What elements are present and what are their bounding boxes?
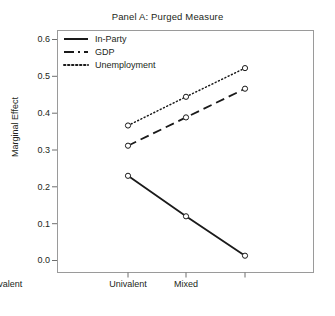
legend-key-dotted-line <box>63 59 89 71</box>
plot-area <box>0 0 335 316</box>
x-tick-marks <box>128 273 245 278</box>
data-point <box>125 143 130 148</box>
y-tick-marks <box>52 40 57 261</box>
data-point <box>242 253 247 258</box>
legend-key-dashed-line <box>63 46 89 58</box>
legend-label: Unemployment <box>95 59 156 71</box>
data-point <box>183 214 188 219</box>
legend-item-gdp: GDP <box>63 45 156 58</box>
legend-item-unemployment: Unemployment <box>63 58 156 71</box>
data-point <box>183 94 188 99</box>
chart-figure: Panel A: Purged Measure Marginal Effect … <box>0 0 335 316</box>
series-in-party <box>125 173 247 258</box>
data-point <box>125 123 130 128</box>
legend-label: In-Party <box>95 33 127 45</box>
legend-item-in-party: In-Party <box>63 32 156 45</box>
data-point <box>242 86 247 91</box>
legend-label: GDP <box>95 46 115 58</box>
data-point <box>242 66 247 71</box>
chart-legend: In-Party GDP Unemployment <box>63 32 156 71</box>
legend-key-solid-line <box>63 33 89 45</box>
data-point <box>125 173 130 178</box>
data-point <box>183 115 188 120</box>
